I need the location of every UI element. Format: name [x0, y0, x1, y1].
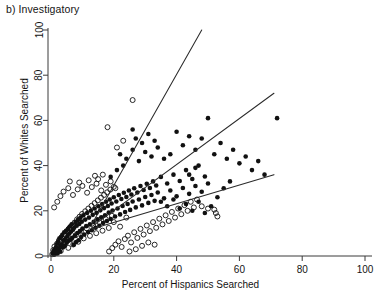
axes-layer: 020406080100020406080100 — [34, 21, 374, 275]
data-point-filled — [181, 143, 186, 148]
data-point-filled — [256, 159, 261, 164]
data-point-open — [116, 239, 121, 244]
data-point-open — [118, 224, 123, 229]
data-point-open — [61, 189, 66, 194]
data-point-open — [141, 232, 146, 237]
data-point-open — [173, 215, 178, 220]
data-point-open — [166, 218, 171, 223]
data-point-filled — [155, 190, 160, 195]
data-point-open — [152, 242, 157, 247]
data-point-open — [132, 230, 137, 235]
data-point-open — [95, 198, 100, 203]
data-point-open — [94, 231, 99, 236]
data-point-filled — [187, 134, 192, 139]
data-point-filled — [215, 195, 220, 200]
plot-canvas: 020406080100020406080100 — [0, 0, 381, 300]
data-point-open — [169, 209, 174, 214]
data-point-open — [125, 233, 130, 238]
data-point-filled — [174, 129, 179, 134]
data-point-open — [99, 188, 104, 193]
data-point-filled — [168, 152, 173, 157]
y-tick-label: 60 — [34, 114, 45, 126]
data-point-filled — [181, 186, 186, 191]
data-point-filled — [154, 183, 159, 188]
data-points-layer — [50, 98, 280, 257]
data-point-filled — [155, 145, 160, 150]
data-point-filled — [146, 201, 151, 206]
y-axis-label: Percent of Whites Searched — [19, 61, 30, 221]
x-tick-label: 100 — [357, 264, 374, 275]
data-point-open — [98, 195, 103, 200]
data-point-open — [55, 199, 60, 204]
data-point-filled — [171, 197, 176, 202]
data-point-open — [185, 208, 190, 213]
data-point-open — [92, 201, 97, 206]
data-point-filled — [206, 181, 211, 186]
data-point-open — [129, 240, 134, 245]
data-point-open — [66, 245, 71, 250]
data-point-filled — [165, 181, 170, 186]
data-point-open — [70, 192, 75, 197]
data-point-filled — [149, 193, 154, 198]
data-point-open — [100, 228, 105, 233]
data-point-filled — [162, 196, 167, 201]
data-point-open — [135, 235, 140, 240]
data-point-filled — [114, 199, 119, 204]
data-point-filled — [199, 136, 204, 141]
x-tick-label: 20 — [108, 264, 120, 275]
x-axis-label: Percent of Hispanics Searched — [0, 279, 381, 290]
data-point-open — [52, 205, 57, 210]
data-point-open — [179, 212, 184, 217]
data-point-filled — [243, 154, 248, 159]
data-point-open — [151, 220, 156, 225]
data-point-filled — [206, 116, 211, 121]
data-point-open — [102, 192, 107, 197]
data-point-open — [146, 240, 151, 245]
data-point-filled — [124, 195, 129, 200]
data-point-open — [103, 182, 108, 187]
data-point-filled — [146, 132, 151, 137]
data-point-filled — [187, 192, 192, 197]
data-point-filled — [162, 157, 167, 162]
data-point-filled — [212, 152, 217, 157]
data-point-open — [119, 244, 124, 249]
data-point-filled — [133, 205, 138, 210]
data-point-open — [130, 98, 135, 103]
data-point-filled — [138, 184, 143, 189]
data-point-filled — [190, 177, 195, 182]
data-point-filled — [109, 201, 114, 206]
data-point-open — [133, 247, 138, 252]
data-point-filled — [117, 193, 122, 198]
data-point-filled — [122, 190, 127, 195]
data-point-filled — [225, 157, 230, 162]
data-point-filled — [149, 154, 154, 159]
data-point-filled — [137, 159, 142, 164]
data-point-open — [89, 185, 94, 190]
x-tick-label: 80 — [297, 264, 309, 275]
data-point-filled — [203, 174, 208, 179]
data-point-open — [89, 203, 94, 208]
data-point-filled — [199, 190, 204, 195]
data-point-open — [105, 125, 110, 130]
data-point-filled — [137, 197, 142, 202]
panel-title: b) Investigatory — [6, 3, 79, 15]
data-point-filled — [184, 168, 189, 173]
data-point-filled — [123, 210, 128, 215]
data-point-open — [114, 145, 119, 150]
data-point-open — [138, 226, 143, 231]
lower-line — [92, 175, 274, 229]
y-tick-label: 40 — [34, 160, 45, 172]
data-point-open — [86, 178, 91, 183]
data-point-filled — [133, 136, 138, 141]
data-point-open — [66, 186, 71, 191]
data-point-open — [58, 194, 63, 199]
data-point-open — [85, 190, 90, 195]
data-point-filled — [125, 202, 130, 207]
data-point-filled — [143, 195, 148, 200]
data-point-filled — [143, 150, 148, 155]
data-point-filled — [115, 168, 120, 173]
data-point-open — [77, 180, 82, 185]
data-point-filled — [130, 127, 135, 132]
data-point-filled — [107, 197, 112, 202]
data-point-open — [206, 206, 211, 211]
